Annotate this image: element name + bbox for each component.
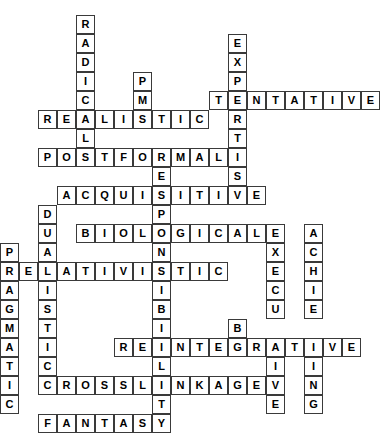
- crossword-cell[interactable]: T: [266, 91, 285, 110]
- crossword-cell[interactable]: A: [190, 148, 209, 167]
- crossword-cell[interactable]: I: [152, 319, 171, 338]
- crossword-cell[interactable]: L: [38, 262, 57, 281]
- crossword-cell[interactable]: S: [133, 110, 152, 129]
- crossword-cell[interactable]: V: [342, 91, 361, 110]
- crossword-cell[interactable]: E: [19, 262, 38, 281]
- crossword-cell[interactable]: I: [304, 357, 323, 376]
- crossword-cell[interactable]: I: [171, 110, 190, 129]
- crossword-cell[interactable]: B: [228, 319, 247, 338]
- crossword-cell[interactable]: I: [114, 110, 133, 129]
- crossword-cell[interactable]: A: [57, 262, 76, 281]
- crossword-cell[interactable]: G: [171, 224, 190, 243]
- crossword-cell[interactable]: A: [0, 281, 19, 300]
- crossword-cell[interactable]: X: [228, 53, 247, 72]
- crossword-cell[interactable]: N: [76, 414, 95, 433]
- crossword-cell[interactable]: V: [114, 262, 133, 281]
- crossword-cell[interactable]: L: [152, 357, 171, 376]
- crossword-cell[interactable]: K: [190, 376, 209, 395]
- crossword-cell[interactable]: I: [152, 338, 171, 357]
- crossword-cell[interactable]: C: [76, 186, 95, 205]
- crossword-cell[interactable]: I: [304, 281, 323, 300]
- crossword-cell[interactable]: R: [57, 376, 76, 395]
- crossword-cell[interactable]: A: [228, 224, 247, 243]
- crossword-cell[interactable]: R: [247, 338, 266, 357]
- crossword-cell[interactable]: G: [228, 338, 247, 357]
- crossword-cell[interactable]: L: [247, 224, 266, 243]
- crossword-cell[interactable]: Y: [152, 414, 171, 433]
- crossword-cell[interactable]: I: [304, 338, 323, 357]
- crossword-cell[interactable]: A: [57, 414, 76, 433]
- crossword-cell[interactable]: L: [133, 224, 152, 243]
- crossword-cell[interactable]: T: [190, 338, 209, 357]
- crossword-cell[interactable]: A: [304, 224, 323, 243]
- crossword-cell[interactable]: L: [209, 148, 228, 167]
- crossword-cell[interactable]: I: [228, 148, 247, 167]
- crossword-cell[interactable]: R: [114, 338, 133, 357]
- crossword-cell[interactable]: I: [152, 376, 171, 395]
- crossword-cell[interactable]: V: [323, 338, 342, 357]
- crossword-cell[interactable]: G: [304, 395, 323, 414]
- crossword-cell[interactable]: S: [114, 376, 133, 395]
- crossword-cell[interactable]: T: [95, 148, 114, 167]
- crossword-cell[interactable]: I: [190, 224, 209, 243]
- crossword-cell[interactable]: I: [76, 72, 95, 91]
- crossword-cell[interactable]: R: [38, 110, 57, 129]
- crossword-cell[interactable]: I: [133, 186, 152, 205]
- crossword-cell[interactable]: T: [76, 262, 95, 281]
- crossword-cell[interactable]: E: [266, 224, 285, 243]
- crossword-cell[interactable]: I: [95, 262, 114, 281]
- crossword-cell[interactable]: E: [228, 34, 247, 53]
- crossword-cell[interactable]: N: [171, 376, 190, 395]
- crossword-cell[interactable]: T: [285, 338, 304, 357]
- crossword-cell[interactable]: T: [304, 91, 323, 110]
- crossword-cell[interactable]: V: [266, 376, 285, 395]
- crossword-cell[interactable]: P: [152, 205, 171, 224]
- crossword-cell[interactable]: R: [76, 15, 95, 34]
- crossword-cell[interactable]: C: [209, 224, 228, 243]
- crossword-cell[interactable]: E: [247, 376, 266, 395]
- crossword-cell[interactable]: L: [133, 376, 152, 395]
- crossword-cell[interactable]: I: [209, 186, 228, 205]
- crossword-cell[interactable]: T: [152, 395, 171, 414]
- crossword-cell[interactable]: O: [152, 224, 171, 243]
- crossword-cell[interactable]: B: [76, 224, 95, 243]
- crossword-cell[interactable]: A: [114, 414, 133, 433]
- crossword-cell[interactable]: D: [76, 53, 95, 72]
- crossword-cell[interactable]: I: [95, 224, 114, 243]
- crossword-cell[interactable]: R: [228, 110, 247, 129]
- crossword-cell[interactable]: S: [152, 262, 171, 281]
- crossword-cell[interactable]: A: [0, 338, 19, 357]
- crossword-cell[interactable]: Q: [95, 186, 114, 205]
- crossword-cell[interactable]: A: [57, 186, 76, 205]
- crossword-cell[interactable]: S: [133, 414, 152, 433]
- crossword-cell[interactable]: U: [114, 186, 133, 205]
- crossword-cell[interactable]: N: [304, 376, 323, 395]
- crossword-cell[interactable]: C: [266, 281, 285, 300]
- crossword-cell[interactable]: I: [152, 281, 171, 300]
- crossword-cell[interactable]: E: [361, 91, 380, 110]
- crossword-cell[interactable]: N: [152, 243, 171, 262]
- crossword-cell[interactable]: C: [209, 262, 228, 281]
- crossword-cell[interactable]: S: [152, 186, 171, 205]
- crossword-cell[interactable]: H: [304, 262, 323, 281]
- crossword-cell[interactable]: M: [171, 148, 190, 167]
- crossword-cell[interactable]: E: [209, 338, 228, 357]
- crossword-cell[interactable]: I: [266, 357, 285, 376]
- crossword-cell[interactable]: X: [266, 243, 285, 262]
- crossword-cell[interactable]: G: [0, 300, 19, 319]
- crossword-cell[interactable]: E: [228, 91, 247, 110]
- crossword-cell[interactable]: L: [76, 129, 95, 148]
- crossword-cell[interactable]: E: [266, 262, 285, 281]
- crossword-cell[interactable]: A: [38, 243, 57, 262]
- crossword-cell[interactable]: I: [171, 186, 190, 205]
- crossword-cell[interactable]: D: [38, 205, 57, 224]
- crossword-cell[interactable]: C: [38, 376, 57, 395]
- crossword-cell[interactable]: T: [228, 129, 247, 148]
- crossword-cell[interactable]: E: [152, 167, 171, 186]
- crossword-cell[interactable]: E: [342, 338, 361, 357]
- crossword-cell[interactable]: C: [190, 110, 209, 129]
- crossword-cell[interactable]: E: [57, 110, 76, 129]
- crossword-cell[interactable]: O: [133, 148, 152, 167]
- crossword-cell[interactable]: L: [95, 110, 114, 129]
- crossword-cell[interactable]: R: [0, 262, 19, 281]
